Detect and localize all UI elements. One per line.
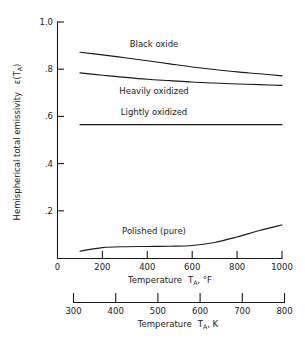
x-tick-label-1000: 1000: [271, 262, 293, 272]
curve-label-black-oxide: Black oxide: [130, 39, 179, 49]
x-axis-title-kelvin: TemperatureTA, K: [137, 319, 219, 330]
y-axis-title-close: ): [12, 64, 22, 67]
y-tick-label-0.4: .4: [45, 159, 53, 169]
x-axis-kelvin: 300 400 500 600 700 800 TemperatureTA, K: [65, 293, 292, 330]
curve-label-polished-pure: Polished (pure): [122, 226, 186, 236]
k-tick-label-400: 400: [108, 306, 124, 316]
curve-label-lightly-oxidized: Lightly oxidized: [121, 107, 187, 117]
x-axis-title-word-f: Temperature: [127, 275, 182, 285]
k-tick-label-500: 500: [150, 306, 166, 316]
x-axis-title-fahrenheit: TemperatureTA, °F: [127, 275, 212, 286]
curve-black-oxide: [80, 52, 282, 76]
x-tick-label-800: 800: [229, 262, 245, 272]
x-axis-title-word-k: Temperature: [137, 319, 192, 329]
x-tick-label-200: 200: [94, 262, 110, 272]
y-tick-label-0.2: .2: [45, 206, 53, 216]
curve-heavily-oxidized: [80, 73, 282, 86]
x-tick-label-0: 0: [55, 262, 60, 272]
emissivity-chart: 1.0 .8 .6 .4 .2 Hemispherical total emis…: [0, 0, 305, 347]
k-tick-label-300: 300: [65, 306, 81, 316]
k-tick-label-700: 700: [234, 306, 250, 316]
x-tick-label-400: 400: [139, 262, 155, 272]
figure-container: 1.0 .8 .6 .4 .2 Hemispherical total emis…: [0, 0, 305, 347]
x-axis-title-unit-k: , K: [207, 319, 218, 329]
k-tick-label-600: 600: [192, 306, 208, 316]
curve-labels-group: Black oxide Heavily oxidized Lightly oxi…: [119, 39, 189, 236]
x-axis-fahrenheit: 0 200 400 600 800 1000 TemperatureTA, °F: [55, 251, 293, 286]
curve-label-heavily-oxidized: Heavily oxidized: [119, 86, 189, 96]
y-axis-title-main: Hemispherical total emissivity: [12, 92, 22, 221]
y-axis-title-symbol: ε(T: [12, 70, 22, 84]
x-tick-label-600: 600: [184, 262, 200, 272]
y-tick-label-1.0: 1.0: [39, 17, 53, 27]
y-axis: 1.0 .8 .6 .4 .2: [39, 17, 64, 258]
x-axis-title-unit-f: , °F: [197, 275, 212, 285]
y-tick-label-0.8: .8: [45, 64, 53, 74]
k-tick-label-800: 800: [276, 306, 292, 316]
data-series-group: [80, 52, 282, 251]
y-axis-title: Hemispherical total emissivity ε(TA): [12, 64, 23, 221]
y-tick-label-0.6: .6: [45, 111, 53, 121]
y-axis-title-text: Hemispherical total emissivity ε(TA): [12, 64, 23, 221]
